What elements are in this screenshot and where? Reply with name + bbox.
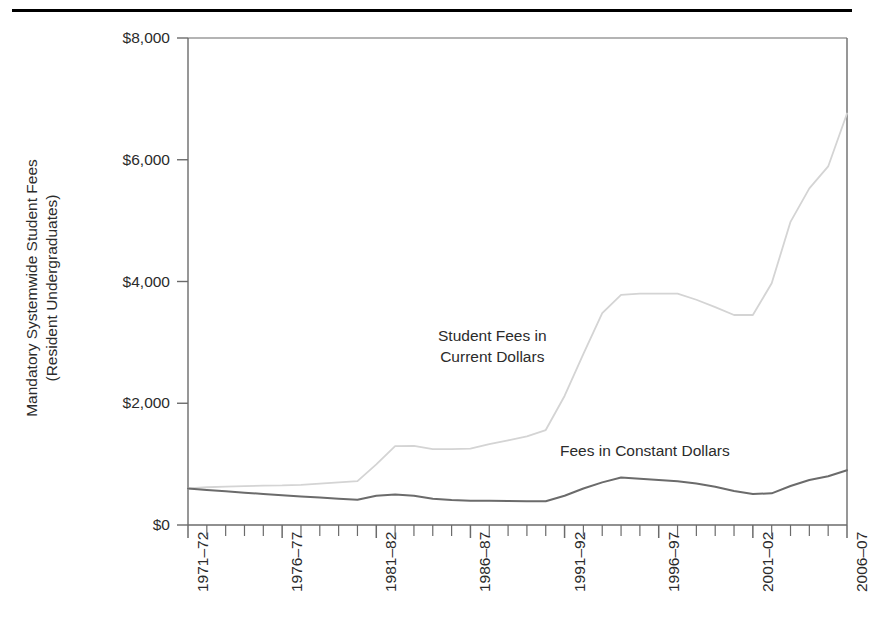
series-line-current-dollars: [188, 113, 847, 488]
series-label-constant-dollars: Fees in Constant Dollars: [560, 440, 730, 461]
series-label-current-dollars: Student Fees in Current Dollars: [438, 325, 547, 367]
